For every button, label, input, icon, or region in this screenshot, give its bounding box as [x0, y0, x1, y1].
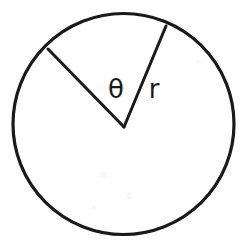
circle-outline	[13, 14, 234, 235]
radius-label: r	[149, 74, 160, 104]
geometry-figure: θ r	[0, 0, 251, 245]
theta-label: θ	[108, 74, 124, 104]
circle-sector-svg: θ r	[0, 0, 251, 245]
